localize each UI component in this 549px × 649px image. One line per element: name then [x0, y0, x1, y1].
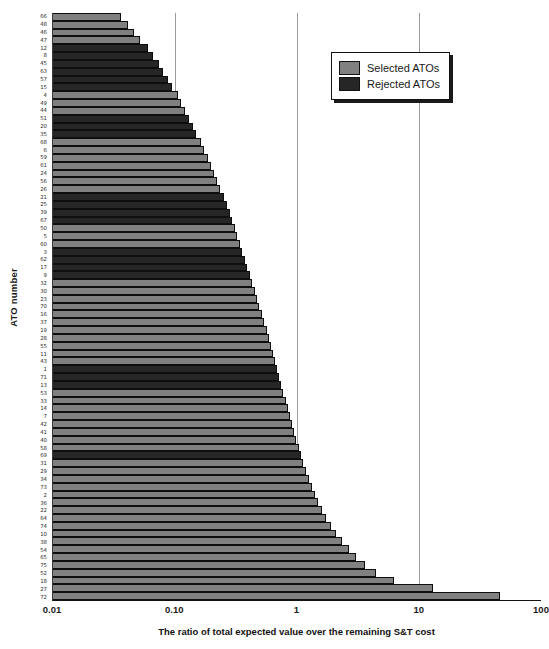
bar-row [53, 107, 541, 115]
y-tick-label: 37 [18, 319, 50, 327]
bar [53, 185, 220, 193]
bar-row [53, 99, 541, 107]
y-tick-label: 25 [18, 201, 50, 209]
bar-row [53, 592, 541, 600]
x-tick-label: 100 [533, 604, 549, 615]
y-tick-label: 14 [18, 405, 50, 413]
plot-area [52, 13, 541, 601]
y-tick-label: 27 [18, 586, 50, 594]
bar [53, 123, 193, 131]
y-tick-label: 54 [18, 546, 50, 554]
y-tick-label: 8 [18, 52, 50, 60]
bar-row [53, 83, 541, 91]
bar-row [53, 303, 541, 311]
bar-row [53, 373, 541, 381]
bar-row [53, 130, 541, 138]
bar-row [53, 177, 541, 185]
bar [53, 373, 279, 381]
bar [53, 514, 326, 522]
y-tick-label: 4 [18, 91, 50, 99]
bar [53, 569, 376, 577]
bar-row [53, 545, 541, 553]
y-tick-label: 70 [18, 303, 50, 311]
y-tick-label: 7 [18, 413, 50, 421]
bar [53, 177, 217, 185]
bar-row [53, 498, 541, 506]
bar [53, 193, 224, 201]
bar [53, 451, 301, 459]
bar-row [53, 334, 541, 342]
bar [53, 444, 299, 452]
y-tick-label: 41 [18, 429, 50, 437]
y-tick-label: 11 [18, 350, 50, 358]
bar-row [53, 217, 541, 225]
bar-row [53, 420, 541, 428]
y-tick-label: 65 [18, 554, 50, 562]
bar [53, 475, 309, 483]
bar-row [53, 357, 541, 365]
bar [53, 130, 196, 138]
bar-row [53, 459, 541, 467]
y-tick-label: 10 [18, 531, 50, 539]
y-tick-label: 22 [18, 507, 50, 515]
bar-row [53, 444, 541, 452]
bar [53, 506, 322, 514]
y-tick-label: 44 [18, 107, 50, 115]
bar [53, 428, 294, 436]
bar [53, 303, 259, 311]
bar [53, 389, 283, 397]
bar [53, 498, 318, 506]
bar [53, 412, 290, 420]
y-tick-label: 1 [18, 366, 50, 374]
y-tick-label: 36 [18, 499, 50, 507]
legend-item-rejected: Rejected ATOs [339, 77, 440, 91]
legend-item-selected: Selected ATOs [339, 61, 440, 75]
bar-row [53, 170, 541, 178]
y-tick-label: 16 [18, 311, 50, 319]
bar [53, 91, 178, 99]
x-axis-title: The ratio of total expected value over t… [52, 626, 541, 637]
bar-row [53, 248, 541, 256]
bar [53, 240, 240, 248]
legend-swatch-rejected [339, 77, 360, 91]
y-tick-label: 73 [18, 484, 50, 492]
y-tick-label: 72 [18, 593, 50, 601]
bar [53, 29, 134, 37]
bar-row [53, 162, 541, 170]
y-tick-label: 40 [18, 437, 50, 445]
y-tick-label: 38 [18, 539, 50, 547]
y-tick-label: 39 [18, 209, 50, 217]
bar [53, 162, 211, 170]
bar [53, 561, 365, 569]
bar-row [53, 52, 541, 60]
bar-row [53, 201, 541, 209]
bar [53, 68, 163, 76]
bar [53, 326, 267, 334]
y-tick-label: 6 [18, 146, 50, 154]
y-tick-label: 15 [18, 84, 50, 92]
y-tick-label: 58 [18, 444, 50, 452]
y-tick-label: 29 [18, 468, 50, 476]
bar [53, 483, 312, 491]
y-tick-label: 52 [18, 570, 50, 578]
bar [53, 217, 232, 225]
legend-label-selected: Selected ATOs [367, 62, 439, 74]
bar-row [53, 138, 541, 146]
bar [53, 170, 214, 178]
y-tick-label: 68 [18, 139, 50, 147]
bar [53, 264, 247, 272]
bar [53, 420, 292, 428]
bar-row [53, 412, 541, 420]
bar [53, 138, 201, 146]
bar-row [53, 530, 541, 538]
bar [53, 577, 394, 585]
bar-row [53, 193, 541, 201]
bar-row [53, 577, 541, 585]
bar-row [53, 295, 541, 303]
y-tick-label: 66 [18, 13, 50, 21]
bar [53, 584, 433, 592]
bar [53, 83, 172, 91]
bar [53, 279, 252, 287]
bar [53, 553, 356, 561]
bar [53, 146, 204, 154]
